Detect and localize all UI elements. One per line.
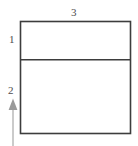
- dimension-label-left: 1: [9, 34, 15, 45]
- outer-rectangle: [21, 22, 131, 134]
- arrow-head-icon: [9, 99, 18, 111]
- figure-canvas: [0, 0, 138, 146]
- dimension-label-top: 3: [71, 7, 77, 18]
- geometry-figure: 3 1 2: [0, 0, 138, 146]
- dimension-label-arrow: 2: [8, 85, 14, 96]
